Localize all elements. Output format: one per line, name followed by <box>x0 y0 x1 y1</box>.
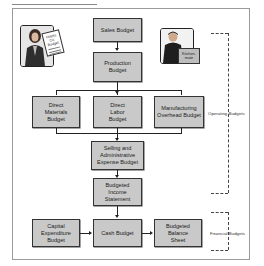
cash-budget-label: Cash Budget <box>101 230 133 237</box>
budget-document-label: Hayes Co. Budget <box>46 33 59 47</box>
arrow-right-icon <box>89 231 92 235</box>
sales-budget-label: Sales Budget <box>101 27 134 34</box>
arrow-down-icon <box>115 48 119 51</box>
kitchenmate-label: Kitchen-mate <box>179 52 199 61</box>
manufacturing-overhead-budget-label: Manufacturing Overhead Budget <box>155 105 203 119</box>
operating-budgets-label: Operating Budgets <box>208 111 245 116</box>
connector <box>181 90 182 95</box>
arrow-right-icon <box>150 231 153 235</box>
financial-budgets-label: Financial Budgets <box>210 231 245 236</box>
connector <box>56 90 182 91</box>
production-budget-box: Production Budget <box>93 52 142 82</box>
direct-materials-budget-box: Direct Materials Budget <box>32 96 80 128</box>
financial-bracket-bottom <box>211 250 228 251</box>
direct-materials-budget-label: Direct Materials Budget <box>33 102 79 123</box>
capital-expenditure-budget-label: Capital Expenditure Budget <box>33 223 79 244</box>
operating-bracket-bottom <box>211 193 228 194</box>
connector <box>56 90 57 95</box>
selling-admin-expense-budget-label: Selling and Administrative Expense Budge… <box>92 145 143 166</box>
connector <box>117 82 118 90</box>
budgeted-balance-sheet-label: Budgeted Balance Sheet <box>155 223 201 244</box>
manufacturing-overhead-budget-box: Manufacturing Overhead Budget <box>154 96 204 128</box>
direct-labor-budget-box: Direct Labor Budget <box>93 96 142 128</box>
arrow-down-icon <box>115 215 119 218</box>
sales-budget-box: Sales Budget <box>93 18 142 42</box>
budgeted-income-statement-label: Budgeted Income Statement <box>94 182 141 203</box>
connector <box>56 133 182 134</box>
capital-expenditure-budget-box: Capital Expenditure Budget <box>32 219 80 247</box>
kitchenmate-box: Kitchen-mate <box>178 48 200 64</box>
selling-admin-expense-budget-box: Selling and Administrative Expense Budge… <box>91 141 144 170</box>
direct-labor-budget-label: Direct Labor Budget <box>94 102 141 123</box>
operating-bracket-top <box>211 33 228 34</box>
production-budget-label: Production Budget <box>94 60 141 74</box>
budgeted-income-statement-box: Budgeted Income Statement <box>93 178 142 206</box>
cash-budget-box: Cash Budget <box>93 219 142 247</box>
arrow-down-icon <box>115 91 119 94</box>
top-rule <box>12 4 97 5</box>
budgeted-balance-sheet-box: Budgeted Balance Sheet <box>154 219 202 247</box>
financial-bracket-top <box>211 212 228 213</box>
